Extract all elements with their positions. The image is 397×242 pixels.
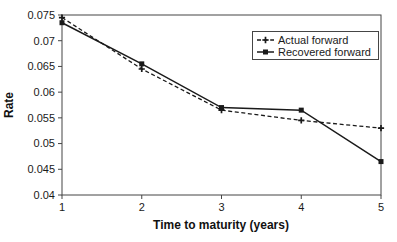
x-tick-label: 3 (218, 201, 224, 213)
x-tick-label: 2 (139, 201, 145, 213)
y-tick-label: 0.045 (27, 163, 55, 175)
legend-label-recovered-forward: Recovered forward (278, 46, 371, 58)
y-tick-label: 0.07 (34, 35, 55, 47)
x-tick-label: 5 (378, 201, 384, 213)
y-tick-label: 0.06 (34, 86, 55, 98)
legend: Actual forward Recovered forward (253, 32, 379, 60)
y-axis-title: Rate (2, 92, 16, 118)
legend-square-marker-icon (263, 50, 268, 55)
square-marker-icon (219, 105, 224, 110)
legend-label-actual-forward: Actual forward (278, 34, 348, 46)
forward-rate-chart: 0.0750.070.0650.060.0550.050.0450.04 123… (0, 0, 397, 242)
square-marker-icon (139, 61, 144, 66)
square-marker-icon (299, 108, 304, 113)
x-tick-label: 4 (298, 201, 304, 213)
y-tick-label: 0.065 (27, 60, 55, 72)
y-tick-label: 0.075 (27, 9, 55, 21)
y-tick-label: 0.055 (27, 112, 55, 124)
x-tick-label: 1 (59, 201, 65, 213)
square-marker-icon (379, 159, 384, 164)
y-tick-label: 0.04 (34, 189, 55, 201)
y-tick-label: 0.05 (34, 137, 55, 149)
square-marker-icon (60, 20, 65, 25)
figure-container: 0.0750.070.0650.060.0550.050.0450.04 123… (0, 0, 397, 242)
x-axis-title: Time to maturity (years) (153, 218, 289, 232)
